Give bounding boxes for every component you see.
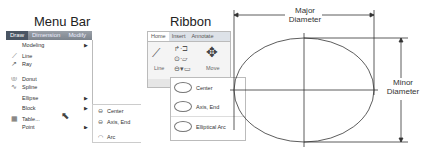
major-label-line1: Major [285, 6, 325, 15]
minor-label-line1: Minor [381, 78, 425, 87]
spline-icon: ∿ [6, 83, 22, 91]
line-button-label: Line [154, 65, 164, 71]
ellipse-submenu: ⊖Center ⊖Axis, End ◠Arc [92, 104, 141, 143]
menu-item-label: Line [22, 53, 32, 59]
menu-bar-caption: Menu Bar [34, 14, 90, 29]
minor-diameter-label: Minor Diameter [381, 78, 425, 96]
menu-item-label: Spline [22, 84, 37, 90]
menu-item-ray[interactable]: ↗Ray [6, 61, 92, 67]
submenu-arrow-icon: ▶ [84, 42, 88, 48]
submenu-item-arc[interactable]: ◠Arc [93, 131, 141, 142]
submenu-arrow-icon: ▶ [84, 95, 88, 101]
menu-item-spline[interactable]: ∿Spline [6, 82, 92, 93]
menu-item-modeling[interactable]: Modeling▶ [6, 40, 92, 51]
draw-menu: Modeling▶ ⟋Line ↗Ray ◎Donut ∿Spline Elli… [6, 40, 93, 129]
submenu-item-axis-end[interactable]: ⊖Axis, End [93, 116, 141, 127]
menu-item-line[interactable]: ⟋Line [6, 51, 92, 62]
menu-modify[interactable]: Modify [64, 31, 90, 40]
ellipse-arc-icon: ◠ [93, 133, 107, 140]
menu-item-label: Ray [22, 61, 32, 67]
ellipse-axis-icon: ⊖ [93, 118, 107, 125]
dropdown-label: Elliptical Arc [196, 124, 226, 130]
menu-item-label: Modeling [22, 42, 44, 48]
minor-label-line2: Diameter [381, 87, 425, 96]
submenu-arrow-icon: ▶ [84, 124, 88, 129]
menu-item-table[interactable]: ▦Table... [6, 114, 92, 125]
submenu-label: Axis, End [107, 119, 130, 125]
ellipse-center-icon [174, 82, 192, 93]
menu-item-label: Block [22, 105, 35, 111]
elliptical-arc-icon [174, 121, 192, 132]
move-icon[interactable]: ✥ [206, 44, 218, 60]
ellipse-center-icon: ⊖ [93, 107, 107, 114]
tab-insert[interactable]: Insert [169, 32, 189, 41]
tab-home[interactable]: Home [148, 32, 169, 41]
submenu-label: Center [107, 108, 124, 114]
menu-dimension[interactable]: Dimension [28, 31, 64, 40]
menu-bar: Draw Dimension Modify [6, 31, 92, 40]
line-icon: ⟋ [6, 52, 22, 60]
dropdown-label: Axis, End [196, 104, 219, 110]
menu-item-label: Ellipse [22, 95, 38, 101]
mouse-cursor-icon: ⬉ [61, 110, 69, 121]
table-icon: ▦ [6, 115, 22, 123]
major-label-line2: Diameter [285, 15, 325, 24]
menu-draw[interactable]: Draw [6, 31, 28, 40]
move-button-label: Move [206, 65, 219, 71]
submenu-label: Arc [107, 134, 115, 140]
line-tool-icon[interactable]: ⟋ [152, 46, 160, 60]
ellipse-axis-icon [174, 101, 192, 112]
menu-item-label: Table... [22, 116, 40, 122]
major-diameter-label: Major Diameter [285, 6, 325, 24]
menu-item-point[interactable]: Point▶ [6, 124, 92, 129]
menu-item-label: Point [22, 124, 35, 129]
menu-item-ellipse[interactable]: Ellipse▶ [6, 93, 92, 104]
tab-annotate[interactable]: Annotate [188, 32, 216, 41]
ray-icon: ↗ [6, 61, 22, 67]
draw-tools-grid[interactable]: ↱·⊐⊙·▱⊖▾▭ [174, 44, 191, 74]
ribbon-caption: Ribbon [170, 14, 211, 29]
submenu-item-center[interactable]: ⊖Center [93, 105, 141, 116]
dropdown-label: Center [196, 85, 213, 91]
menu-item-block[interactable]: Block▶ [6, 103, 92, 114]
submenu-arrow-icon: ▶ [84, 105, 88, 111]
